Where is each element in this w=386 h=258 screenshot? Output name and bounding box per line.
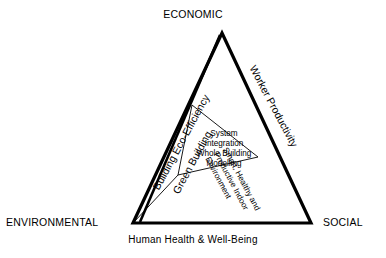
- corner-label-environmental: ENVIRONMENTAL: [6, 216, 98, 228]
- core-label-system-integration-whole-building-modelling: System Integration Whole Building Modell…: [186, 129, 262, 169]
- sustainability-triangle-diagram: ECONOMIC ENVIRONMENTAL SOCIAL Human Heal…: [0, 0, 386, 258]
- core-line-3: Whole Building: [186, 149, 262, 159]
- core-line-2: Integration: [186, 139, 262, 149]
- corner-label-social: SOCIAL: [323, 216, 363, 228]
- core-line-4: Modelling: [186, 159, 262, 169]
- core-line-1: System: [186, 129, 262, 139]
- corner-label-economic: ECONOMIC: [0, 8, 386, 20]
- edge-label-human-health-wellbeing: Human Health & Well-Being: [0, 234, 386, 245]
